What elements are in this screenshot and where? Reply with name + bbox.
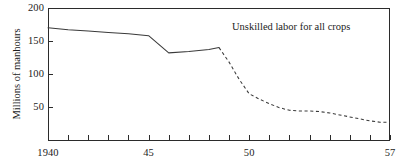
- series-line-projected: [219, 48, 390, 123]
- y-axis-tick-label: 200: [28, 3, 44, 14]
- x-axis-tick-label: 50: [244, 148, 255, 159]
- y-axis-tick-label: 100: [28, 69, 44, 80]
- chart-figure: 20015010050 1940455057 Millions of manho…: [0, 0, 407, 167]
- y-axis-tick-label: 150: [28, 36, 44, 47]
- x-axis-tick-label: 1940: [37, 148, 58, 159]
- series-line-observed: [48, 28, 219, 53]
- y-axis-tick-label: 50: [33, 102, 44, 113]
- x-axis-ticks: [49, 135, 391, 140]
- x-axis-tick-label: 57: [385, 148, 396, 159]
- series-annotation-label: Unskilled labor for all crops: [232, 22, 350, 33]
- x-axis-tick-label: 45: [143, 148, 154, 159]
- y-axis-title: Millions of manhours: [12, 29, 23, 120]
